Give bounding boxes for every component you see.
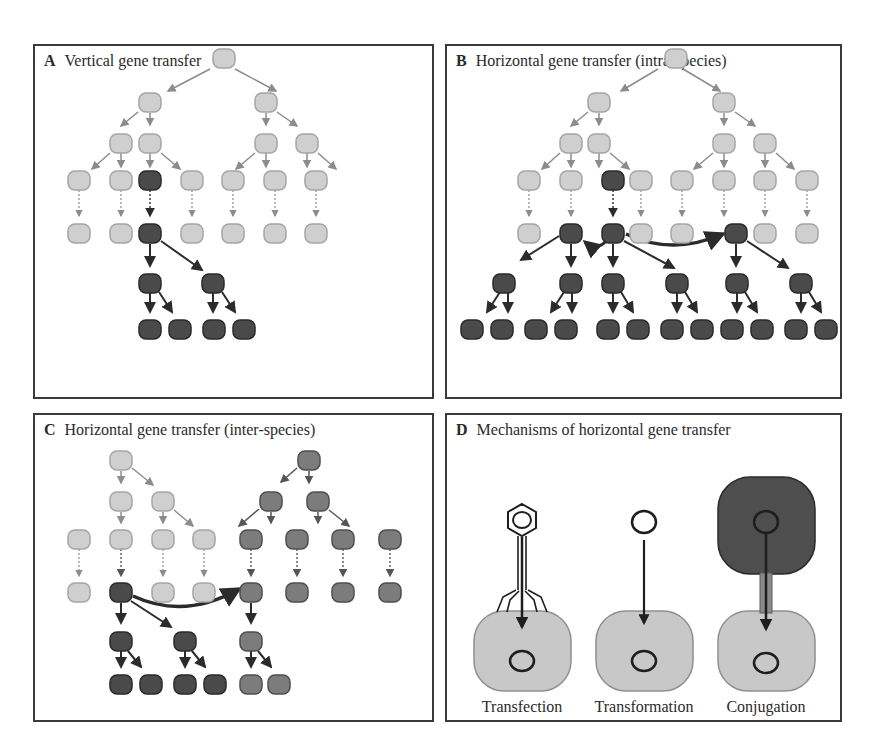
mechanism-label-transformation: Transformation (584, 698, 704, 716)
dark-cells (139, 171, 255, 339)
mechanism-label-transfection: Transfection (467, 698, 577, 716)
panel-a-vertical-gene-transfer: AVertical gene transfer (33, 44, 434, 399)
free-dna-plasmid-icon (632, 511, 656, 623)
bacteriophage-icon (497, 504, 547, 627)
panel-c-inter-species-transfer: CHorizontal gene transfer (inter-species… (33, 413, 434, 722)
panel-d-mechanism-illustrations (447, 415, 844, 724)
light-cells (68, 49, 327, 243)
donor-cell-icon (718, 477, 815, 629)
panel-a-lineage-tree (35, 46, 436, 401)
panel-c-lineage-trees (35, 415, 436, 724)
panel-b-intra-species-transfer: BHorizontal gene transfer (intra-species… (445, 44, 842, 399)
mechanism-label-conjugation: Conjugation (711, 698, 821, 716)
inter-species-transfer-arrow (133, 589, 239, 606)
panel-b-lineage-tree (447, 46, 844, 401)
dotted-arrows (79, 190, 316, 216)
light-arrows (92, 69, 336, 169)
panel-d-mechanisms: DMechanisms of horizontal gene transfer (445, 413, 842, 722)
